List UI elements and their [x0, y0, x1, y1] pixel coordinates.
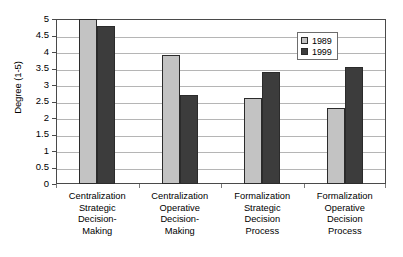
- x-axis-label-line: Making: [139, 226, 222, 238]
- x-axis-label-line: Process: [304, 226, 387, 238]
- y-tick-label: 4: [44, 46, 49, 57]
- x-tick-mark: [221, 184, 222, 188]
- x-axis-label-line: Formalization: [221, 191, 304, 203]
- gridline: [57, 70, 385, 71]
- y-tick-label: 3.5: [36, 62, 49, 73]
- legend-label-1999: 1999: [312, 47, 332, 57]
- x-axis-label-line: Decision: [221, 214, 304, 226]
- legend-item-1989: 1989: [301, 35, 332, 46]
- y-axis-ticks: 54.543.532.521.510.50: [0, 19, 56, 184]
- x-axis-label-2: FormalizationStrategicDecisionProcess: [221, 191, 304, 253]
- x-axis-label-line: Decision-: [139, 214, 222, 226]
- y-tick-label: 0.5: [36, 161, 49, 172]
- gridline: [57, 103, 385, 104]
- x-axis-label-line: Operative: [304, 203, 387, 215]
- gridline: [57, 169, 385, 170]
- gridline: [57, 152, 385, 153]
- y-tick-label: 4.5: [36, 29, 49, 40]
- bar-chart: Degree (1-5) 54.543.532.521.510.50 Centr…: [0, 0, 403, 257]
- gridline: [57, 119, 385, 120]
- gridline: [57, 86, 385, 87]
- legend-item-1999: 1999: [301, 46, 332, 57]
- chart-legend: 1989 1999: [297, 32, 338, 60]
- legend-swatch-1999: [301, 48, 308, 55]
- x-axis-label-1: CentralizationOperativeDecision-Making: [139, 191, 222, 253]
- y-tick-label: 0: [44, 178, 49, 189]
- y-tick-label: 2.5: [36, 95, 49, 106]
- x-axis-ticks: [56, 184, 386, 189]
- x-axis-label-line: Strategic: [221, 203, 304, 215]
- legend-label-1989: 1989: [312, 36, 332, 46]
- x-axis-label-line: Decision: [304, 214, 387, 226]
- y-tick-label: 2: [44, 112, 49, 123]
- legend-swatch-1989: [301, 37, 308, 44]
- x-axis-label-line: Centralization: [139, 191, 222, 203]
- x-tick-mark: [56, 184, 57, 188]
- x-axis-label-line: Operative: [139, 203, 222, 215]
- x-axis-label-line: Making: [56, 226, 139, 238]
- x-axis-label-0: CentralizationStrategicDecision-Making: [56, 191, 139, 253]
- x-axis-label-line: Strategic: [56, 203, 139, 215]
- y-tick-label: 1: [44, 145, 49, 156]
- x-axis-label-3: FormalizationOperativeDecisionProcess: [304, 191, 387, 253]
- x-axis-label-line: Formalization: [304, 191, 387, 203]
- x-tick-mark: [139, 184, 140, 188]
- x-tick-mark: [385, 184, 386, 188]
- y-tick-label: 1.5: [36, 128, 49, 139]
- y-tick-label: 3: [44, 79, 49, 90]
- x-axis-label-line: Process: [221, 226, 304, 238]
- x-axis-labels: CentralizationStrategicDecision-MakingCe…: [56, 191, 386, 253]
- x-axis-label-line: Decision-: [56, 214, 139, 226]
- x-tick-mark: [304, 184, 305, 188]
- gridline: [57, 136, 385, 137]
- y-tick-label: 5: [44, 13, 49, 24]
- x-axis-label-line: Centralization: [56, 191, 139, 203]
